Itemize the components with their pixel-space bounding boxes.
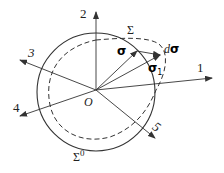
- origin-label: O: [84, 95, 93, 109]
- axis-1-label: 1: [197, 60, 204, 75]
- dsigma-label: dσ: [164, 42, 179, 56]
- current-surface-label: Σ: [127, 23, 134, 37]
- axis-3: [20, 60, 96, 90]
- axis-5: [96, 90, 155, 138]
- axis-3-label: 3: [27, 45, 35, 60]
- sigma1-label: σ1: [148, 61, 162, 77]
- axis-4-label: 4: [13, 100, 20, 115]
- yield-surface-diagram: 2 1 3 4 5 O Σ Σ0 σ σ1 dσ: [0, 0, 224, 173]
- initial-surface-label: Σ0: [73, 148, 85, 164]
- axis-5-label: 5: [150, 119, 164, 135]
- axis-2-label: 2: [80, 6, 87, 21]
- sigma-label: σ: [117, 44, 126, 58]
